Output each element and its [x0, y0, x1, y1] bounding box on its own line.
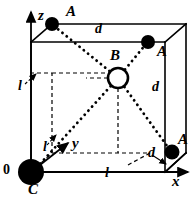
atom-label-A-top-front-right: A [157, 44, 167, 59]
hidden-edge-bottom-depth-guide [128, 153, 150, 165]
atom-A-top-front-right[interactable] [141, 35, 155, 49]
atom-B-body-centre[interactable] [108, 68, 128, 88]
axis-label-x: x [172, 174, 180, 189]
axis-label-y: y [72, 136, 79, 151]
axis-label-z: z [38, 8, 44, 23]
dimension-label-l-diagonal: l [43, 140, 47, 154]
dimension-label-d-top: d [95, 22, 102, 36]
dimension-label-l-bottom: l [105, 166, 109, 180]
origin-label: 0 [3, 163, 10, 177]
atom-label-C-origin: C [28, 182, 38, 197]
lattice-figure: z y x 0 A A A B C d d d l l l [0, 0, 196, 199]
bond-B-to-A-bottom-right [118, 78, 170, 150]
atom-label-B-body-centre: B [110, 48, 120, 63]
atom-label-A-top-back-left: A [66, 4, 76, 19]
bond-B-to-A-top-back-left [54, 26, 118, 78]
atom-A-top-back-left[interactable] [45, 17, 59, 31]
dimension-label-d-right: d [152, 80, 159, 94]
atom-label-A-bottom-right: A [178, 132, 188, 147]
hidden-edges-group [30, 73, 150, 172]
edge-depth-top-right [165, 24, 186, 42]
dimension-label-l-left: l [18, 79, 22, 93]
dimension-label-d-bottom-right: d [148, 146, 155, 160]
